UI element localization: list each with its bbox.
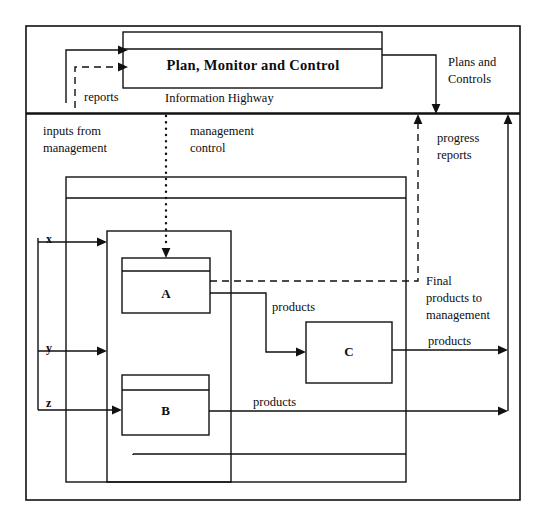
input-y-label: y	[46, 341, 52, 356]
system-box	[66, 177, 406, 482]
final-products-line3: management	[426, 308, 490, 323]
products-a-to-c-arrowhead	[296, 348, 306, 357]
progress-reports-line2: reports	[437, 148, 472, 163]
block-b-label: B	[122, 403, 209, 418]
pmc-title: Plan, Monitor and Control	[140, 58, 366, 73]
right-return-arrowhead	[504, 114, 513, 124]
final-products-line2: products to	[426, 291, 482, 306]
final-products-dashed-path	[210, 124, 418, 281]
block-c-label: C	[306, 344, 392, 359]
products-c-out-arrowhead	[498, 346, 508, 355]
final-products-line1: Final	[426, 274, 452, 289]
progress-reports-line1: progress	[437, 131, 479, 146]
products-b-out-arrowhead	[498, 407, 508, 416]
subsystem-box	[107, 231, 231, 482]
input-y-arrowhead	[97, 347, 107, 356]
diagram-canvas: Plan, Monitor and Control Information Hi…	[0, 0, 539, 524]
products-label-c-out: products	[428, 334, 471, 349]
input-z-arrowhead	[112, 406, 122, 415]
block-a-label: A	[122, 286, 210, 301]
products-label-a-to-c: products	[272, 300, 315, 315]
inputs-from-management-line2: management	[43, 141, 107, 156]
input-x-arrowhead	[97, 238, 107, 247]
plans-controls-path	[382, 55, 436, 104]
reports-label: reports	[84, 90, 119, 105]
management-control-arrowhead	[162, 248, 171, 258]
input-x-label: x	[46, 232, 52, 247]
plans-and-controls-label-line2: Controls	[448, 72, 491, 87]
information-highway-label: Information Highway	[165, 91, 274, 106]
plans-and-controls-label-line1: Plans and	[448, 55, 496, 70]
input-z-label: z	[46, 396, 51, 411]
management-control-line2: control	[190, 141, 225, 156]
management-control-line1: management	[190, 124, 254, 139]
inputs-from-management-line1: inputs from	[43, 124, 101, 139]
final-products-arrowhead	[414, 114, 423, 124]
products-label-b-out: products	[253, 395, 296, 410]
